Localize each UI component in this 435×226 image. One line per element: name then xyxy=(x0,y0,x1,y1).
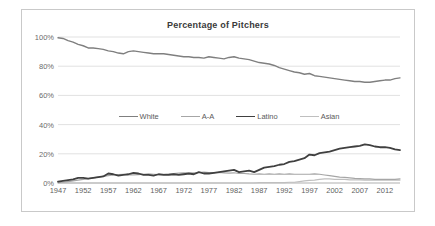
chart-container: Percentage of Pitchers 0%20%40%60%80%100… xyxy=(21,9,415,212)
y-axis-tick-label: 20% xyxy=(39,149,54,158)
y-axis-tick-label: 40% xyxy=(39,120,54,129)
y-axis-tick-label: 80% xyxy=(39,62,54,71)
legend-entry-a-a[interactable]: A-A xyxy=(181,112,215,121)
x-axis-tick-label: 1967 xyxy=(150,186,167,195)
legend-label: Latino xyxy=(257,112,277,121)
x-axis-tick-label: 1947 xyxy=(50,186,67,195)
series-line-white xyxy=(58,38,400,83)
y-axis-tick-label: 100% xyxy=(35,33,54,42)
y-axis-labels: 0%20%40%60%80%100% xyxy=(22,37,54,183)
legend-line-swatch xyxy=(300,116,319,117)
y-axis-tick-label: 60% xyxy=(39,91,54,100)
x-axis-tick-label: 1957 xyxy=(100,186,117,195)
legend-entry-asian[interactable]: Asian xyxy=(300,112,340,121)
x-axis-tick-label: 2007 xyxy=(351,186,368,195)
x-axis-tick-label: 1962 xyxy=(125,186,142,195)
legend-line-swatch xyxy=(119,116,138,117)
legend-label: Asian xyxy=(321,112,340,121)
x-axis-tick-label: 1997 xyxy=(301,186,318,195)
series-line-asian xyxy=(58,179,400,183)
chart-title: Percentage of Pitchers xyxy=(22,20,414,30)
x-axis-tick-label: 2012 xyxy=(377,186,394,195)
x-axis-labels: 1947195219571962196719721977198219871992… xyxy=(58,186,400,200)
x-axis-tick-label: 1987 xyxy=(251,186,268,195)
x-axis-tick-label: 1972 xyxy=(175,186,192,195)
legend-label: A-A xyxy=(202,112,215,121)
x-axis-tick-label: 1952 xyxy=(75,186,92,195)
legend-entry-latino[interactable]: Latino xyxy=(236,112,277,121)
x-axis-tick-label: 2002 xyxy=(326,186,343,195)
legend-entry-white[interactable]: White xyxy=(119,112,159,121)
legend-line-swatch xyxy=(181,116,200,117)
legend-label: White xyxy=(140,112,159,121)
x-axis-tick-label: 1992 xyxy=(276,186,293,195)
x-axis-tick-label: 1982 xyxy=(226,186,243,195)
chart-legend: WhiteA-ALatinoAsian xyxy=(58,110,400,122)
legend-line-swatch xyxy=(236,116,255,117)
x-axis-tick-label: 1977 xyxy=(201,186,218,195)
